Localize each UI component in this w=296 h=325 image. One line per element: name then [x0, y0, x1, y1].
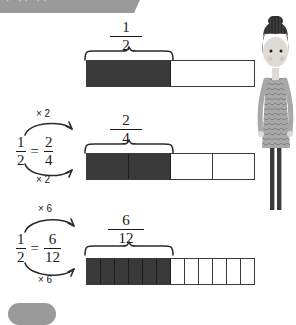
teacher-figure-illustration — [256, 16, 296, 216]
equation-block-two-fourths: × 2 1 2 = 2 4 × 2 — [14, 108, 90, 184]
bar-cell-filled — [115, 259, 129, 284]
bar-cell-filled — [143, 259, 157, 284]
bar-cell-empty — [171, 61, 254, 86]
multiply-label-top: × 6 — [38, 203, 52, 214]
bottom-pill-button[interactable] — [8, 303, 56, 325]
bar-cell-empty — [213, 154, 254, 179]
banner-skew-edge — [134, 0, 146, 13]
brace-half — [83, 46, 175, 61]
fraction-numerator: 1 — [110, 20, 142, 36]
right-numerator: 2 — [44, 135, 54, 151]
bar-cell-empty — [227, 259, 241, 284]
bar-cell-filled — [87, 259, 101, 284]
bar-cell-filled — [129, 259, 143, 284]
bar-cell-empty — [185, 259, 199, 284]
top-banner: · ·· ·· — [0, 0, 146, 13]
bar-cell-empty — [171, 259, 185, 284]
bar-cell-empty — [213, 259, 227, 284]
right-numerator: 6 — [44, 232, 61, 248]
multiply-label-bottom: × 2 — [36, 174, 50, 185]
fraction-bar-half — [86, 60, 255, 87]
fraction-numerator: 6 — [108, 213, 144, 229]
left-numerator: 1 — [16, 135, 26, 151]
top-banner-label: · ·· ·· — [6, 0, 49, 6]
bar-cell-filled — [101, 259, 115, 284]
bar-cell-empty — [199, 259, 213, 284]
multiply-label-top: × 2 — [36, 108, 50, 119]
bar-cell-empty — [171, 154, 213, 179]
bar-cell-filled — [87, 154, 129, 179]
brace-six-twelfths — [83, 241, 175, 256]
left-numerator: 1 — [16, 232, 26, 248]
arrow-bottom-denominator — [22, 162, 80, 180]
bar-cell-filled — [157, 259, 171, 284]
bar-cell-filled — [129, 154, 171, 179]
brace-two-fourths — [83, 139, 175, 154]
bar-cell-filled — [87, 61, 171, 86]
equals-sign: = — [30, 143, 40, 160]
fraction-numerator: 2 — [110, 113, 142, 129]
multiply-label-bottom: × 6 — [38, 274, 52, 285]
equation-block-six-twelfths: × 6 1 2 = 6 12 × 6 — [14, 203, 94, 285]
fraction-bar-six-twelfths — [86, 258, 255, 285]
equals-sign: = — [30, 240, 40, 257]
fraction-bar-two-fourths — [86, 153, 255, 180]
bar-cell-empty — [241, 259, 254, 284]
